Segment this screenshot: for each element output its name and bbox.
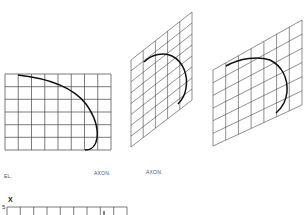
diagram-canvas	[0, 0, 308, 215]
tick-label-5: 5	[2, 204, 5, 210]
elevation-curve	[18, 75, 97, 150]
axon-label-1: AXON.	[94, 170, 111, 176]
elevation-grid	[5, 74, 111, 150]
axon-label-2: AXON.	[146, 169, 163, 175]
axon-grid-2	[213, 20, 302, 146]
axon-curve-1	[144, 54, 186, 104]
elevation-label: EL.	[4, 173, 12, 179]
bottom-grid	[7, 207, 127, 215]
x-axis-label: X	[8, 196, 13, 203]
axon-grid-1	[131, 12, 192, 147]
